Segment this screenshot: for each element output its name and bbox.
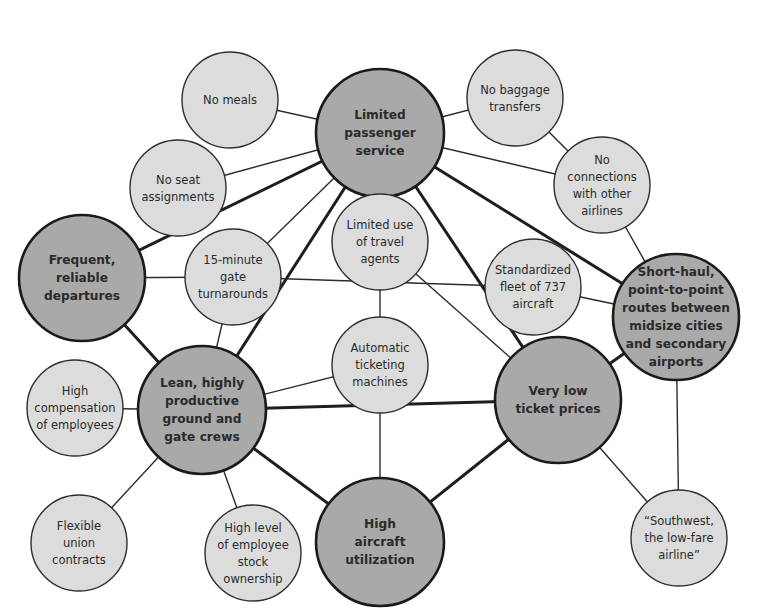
node-label-line: ground and [162, 412, 241, 426]
node-label-line: aircraft [512, 297, 554, 311]
node-label-line: No [594, 153, 610, 167]
node-label-line: airlines [581, 204, 623, 218]
node-label-line: ticketing [355, 358, 405, 372]
node-circle [554, 137, 650, 233]
node-very-low-prices: Very lowticket prices [495, 337, 621, 463]
node-label-line: No seat [156, 173, 200, 187]
node-label-line: ticket prices [516, 402, 601, 416]
node-label-line: union [63, 536, 95, 550]
node-label-line: agents [360, 252, 399, 266]
node-label-line: contracts [52, 553, 106, 567]
node-label-line: Lean, highly [160, 376, 244, 390]
node-label-line: passenger [344, 126, 415, 140]
node-label-line: fleet of 737 [500, 280, 566, 294]
node-label-line: machines [352, 375, 407, 389]
node-high-compensation: Highcompensationof employees [27, 360, 123, 456]
node-circle [467, 50, 563, 146]
node-label-line: 15-minute [203, 253, 262, 267]
node-label-line: aircraft [355, 535, 406, 549]
node-label-line: with other [573, 187, 632, 201]
node-label-line: Very low [528, 384, 587, 398]
node-automatic-ticketing: Automaticticketingmachines [332, 317, 428, 413]
node-circle [138, 346, 266, 474]
node-standardized-fleet: Standardizedfleet of 737aircraft [485, 239, 581, 335]
node-no-meals: No meals [182, 52, 278, 148]
node-label-line: of employee [217, 538, 289, 552]
node-label-line: gate crews [164, 430, 239, 444]
node-label-line: compensation [34, 401, 115, 415]
node-label-line: Flexible [57, 519, 101, 533]
node-gate-turnarounds: 15-minutegateturnarounds [185, 229, 281, 325]
node-label-line: No baggage [480, 83, 550, 97]
node-label-line: gate [220, 270, 246, 284]
node-label-line: ownership [223, 572, 282, 586]
node-label-line: utilization [345, 553, 414, 567]
node-southwest-slogan: “Southwest,the low-fareairline” [631, 490, 727, 586]
node-stock-ownership: High levelof employeestockownership [205, 505, 301, 601]
node-label-line: Limited [354, 108, 406, 122]
node-label-line: service [355, 144, 404, 158]
node-label-line: Automatic [351, 341, 410, 355]
node-label-line: airline” [658, 548, 700, 562]
node-label-line: Short-haul, [637, 265, 714, 279]
node-no-seat-assignments: No seatassignments [130, 140, 226, 236]
node-label-line: reliable [56, 271, 108, 285]
node-label-line: departures [44, 289, 120, 303]
node-label-line: airports [649, 355, 704, 369]
node-label-line: of employees [36, 418, 114, 432]
node-label-line: assignments [142, 190, 215, 204]
node-label-line: point-to-point [628, 283, 724, 297]
node-label-line: stock [238, 555, 269, 569]
node-lean-crews: Lean, highlyproductiveground andgate cre… [138, 346, 266, 474]
node-label-line: the low-fare [645, 531, 714, 545]
node-label-line: “Southwest, [644, 514, 714, 528]
node-label-line: High [364, 517, 396, 531]
node-label-line: turnarounds [198, 287, 268, 301]
node-label-line: No meals [203, 93, 257, 107]
node-label-line: High [62, 384, 88, 398]
node-no-baggage-transfers: No baggagetransfers [467, 50, 563, 146]
node-label-line: of travel [356, 235, 404, 249]
node-label-line: midsize cities [629, 319, 723, 333]
node-circle [495, 337, 621, 463]
node-circle [205, 505, 301, 601]
node-label-line: Frequent, [49, 253, 116, 267]
node-flexible-union: Flexibleunioncontracts [31, 495, 127, 591]
node-frequent-reliable-departures: Frequent,reliabledepartures [19, 215, 145, 341]
node-label-line: Limited use [347, 218, 414, 232]
node-high-utilization: Highaircraftutilization [316, 478, 444, 606]
node-short-haul-routes: Short-haul,point-to-pointroutes betweenm… [613, 254, 739, 380]
node-label-line: High level [224, 521, 281, 535]
node-no-connections: Noconnectionswith otherairlines [554, 137, 650, 233]
node-limited-passenger-service: Limitedpassengerservice [316, 69, 444, 197]
node-label-line: productive [165, 394, 239, 408]
node-circle [130, 140, 226, 236]
activity-system-diagram: LimitedpassengerserviceNo mealsNo seatas… [0, 0, 770, 616]
node-label-line: and secondary [626, 337, 727, 351]
node-label-line: transfers [489, 100, 540, 114]
node-label-line: Standardized [495, 263, 571, 277]
node-label-line: connections [567, 170, 636, 184]
node-label-line: routes between [622, 301, 730, 315]
node-limited-travel-agents: Limited useof travelagents [332, 194, 428, 290]
